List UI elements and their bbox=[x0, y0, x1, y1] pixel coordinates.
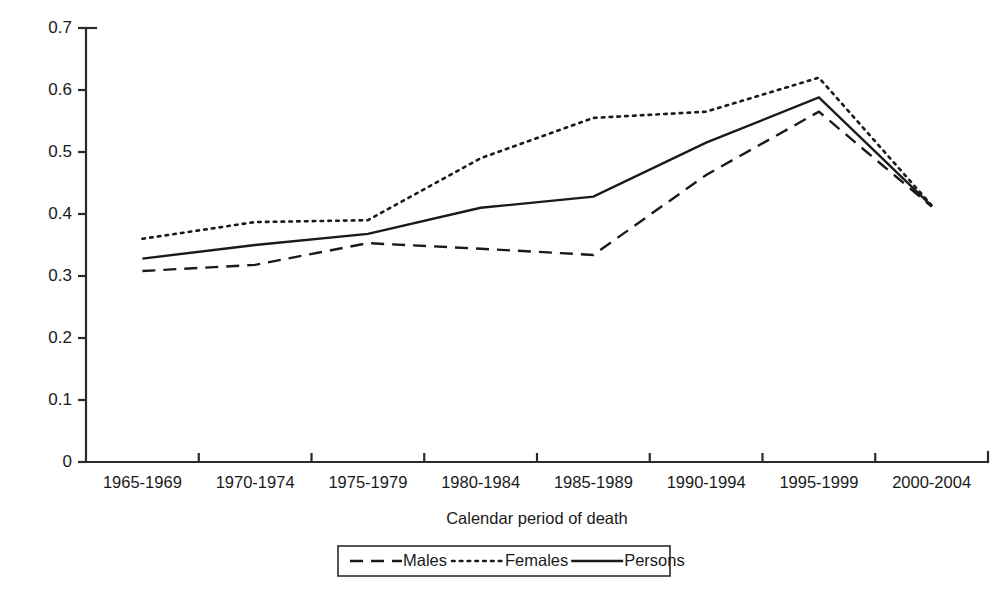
legend-label-males: Males bbox=[403, 551, 447, 569]
legend-label-females: Females bbox=[505, 551, 568, 569]
x-tick-label: 1975-1979 bbox=[328, 473, 407, 491]
chart-background bbox=[0, 0, 1007, 592]
y-tick-label: 0.2 bbox=[48, 328, 72, 347]
legend-label-persons: Persons bbox=[624, 551, 685, 569]
x-tick-label: 1980-1984 bbox=[441, 473, 520, 491]
x-tick-label: 1985-1989 bbox=[554, 473, 633, 491]
x-tick-label: 1995-1999 bbox=[779, 473, 858, 491]
x-axis-title: Calendar period of death bbox=[446, 509, 628, 527]
chart-legend: MalesFemalesPersons bbox=[338, 546, 685, 576]
y-tick-label: 0.3 bbox=[48, 266, 72, 285]
chart-svg: 00.10.20.30.40.50.60.7 1965-19691970-197… bbox=[0, 0, 1007, 592]
y-tick-label: 0.5 bbox=[48, 142, 72, 161]
y-tick-label: 0 bbox=[63, 452, 72, 471]
x-tick-label: 1990-1994 bbox=[667, 473, 746, 491]
y-tick-label: 0.4 bbox=[48, 204, 72, 223]
x-tick-label: 1970-1974 bbox=[216, 473, 295, 491]
x-tick-label: 1965-1969 bbox=[103, 473, 182, 491]
x-tick-label: 2000-2004 bbox=[892, 473, 971, 491]
y-tick-label: 0.1 bbox=[48, 390, 72, 409]
y-tick-label: 0.6 bbox=[48, 80, 72, 99]
y-tick-label: 0.7 bbox=[48, 18, 72, 37]
line-chart: 00.10.20.30.40.50.60.7 1965-19691970-197… bbox=[0, 0, 1007, 592]
